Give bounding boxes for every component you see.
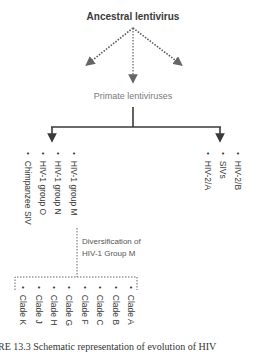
clade-item: •Clade B bbox=[111, 286, 121, 325]
left-group-item: •Chimpanzee SIV bbox=[23, 152, 33, 225]
clade-item: •Clade J bbox=[34, 286, 44, 324]
clade-item: •Clade H bbox=[49, 286, 59, 326]
dotted-arrow-left bbox=[89, 28, 133, 63]
dotted-arrow-right bbox=[133, 28, 179, 63]
ancestral-lentivirus-label: Ancestral lentivirus bbox=[87, 11, 180, 22]
diversification-note-line1: Diversification of bbox=[82, 236, 141, 248]
left-group-item: •HIV-1 group M bbox=[69, 152, 79, 216]
clade-item: •Clade C bbox=[95, 286, 105, 326]
right-group-item: •HIV-2/A bbox=[203, 152, 213, 190]
clade-item: •Clade K bbox=[18, 286, 28, 325]
left-group-item: •HIV-1 group N bbox=[53, 152, 63, 215]
diversification-note: Diversification of HIV-1 Group M bbox=[82, 236, 141, 260]
right-group-item: •SIVs bbox=[218, 152, 228, 179]
primate-lentiviruses-label: Primate lentiviruses bbox=[94, 91, 173, 101]
clade-item: •Clade F bbox=[80, 286, 90, 325]
clade-item: •Clade A bbox=[126, 286, 136, 325]
left-group-item: •HIV-1 group O bbox=[38, 152, 48, 215]
diversification-note-line2: HIV-1 Group M bbox=[82, 248, 141, 260]
right-group-item: •HIV-2/B bbox=[233, 152, 243, 190]
figure-caption: RE 13.3 Schematic representation of evol… bbox=[0, 341, 216, 352]
clade-item: •Clade G bbox=[64, 286, 74, 326]
solid-branch bbox=[51, 107, 221, 138]
